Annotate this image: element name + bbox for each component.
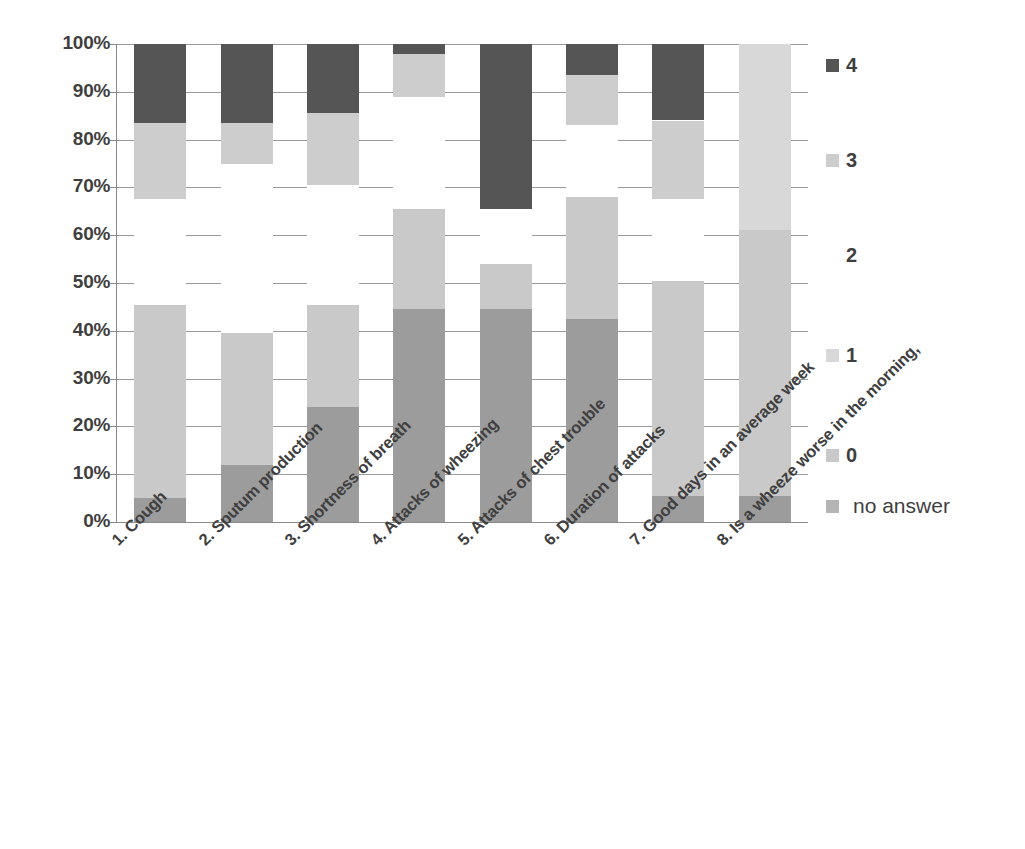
legend-label: 0 <box>846 444 857 467</box>
legend-label: 4 <box>846 54 857 77</box>
legend-item[interactable]: 0 <box>826 444 857 467</box>
legend-item[interactable]: 1 <box>826 344 857 367</box>
stacked-bar-chart: 100%90%80%70%60%50%40%30%20%10%0% 1. Cou… <box>0 0 1025 849</box>
legend-label: 1 <box>846 344 857 367</box>
x-axis-label: 7. Good days in an average week <box>626 358 818 550</box>
x-axis-label: 5. Attacks of chest trouble <box>454 394 609 549</box>
legend-swatch <box>826 349 839 362</box>
x-axis-label: 1. Cough <box>108 487 170 549</box>
legend-swatch <box>826 500 839 513</box>
legend-swatch <box>826 449 839 462</box>
legend-item[interactable]: no answer <box>826 494 950 518</box>
legend-label: 3 <box>846 149 857 172</box>
legend-label: 2 <box>846 244 857 267</box>
chart-legend: 43210no answer <box>826 44 1016 522</box>
legend-swatch <box>826 249 839 262</box>
legend-swatch <box>826 59 839 72</box>
legend-swatch <box>826 154 839 167</box>
legend-item[interactable]: 4 <box>826 54 857 77</box>
legend-label: no answer <box>853 494 950 518</box>
legend-item[interactable]: 2 <box>826 244 857 267</box>
legend-item[interactable]: 3 <box>826 149 857 172</box>
